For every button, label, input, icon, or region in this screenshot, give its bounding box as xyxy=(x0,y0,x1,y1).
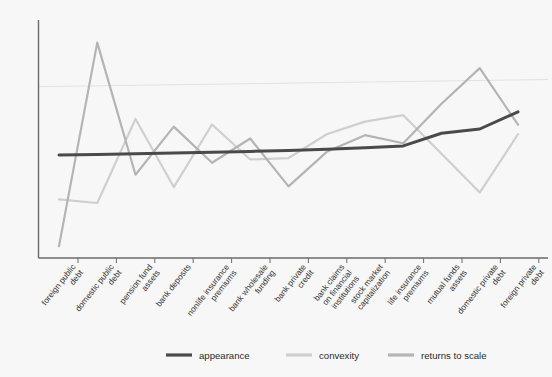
legend-label: returns to scale xyxy=(421,350,487,361)
legend-label: appearance xyxy=(199,350,250,361)
chart-background xyxy=(0,0,552,377)
line-chart: foreign publicdebtdomestic publicdebtpen… xyxy=(0,0,552,377)
chart-legend: appearanceconvexityreturns to scale xyxy=(166,350,487,361)
chart-container: foreign publicdebtdomestic publicdebtpen… xyxy=(0,0,552,377)
legend-label: convexity xyxy=(319,350,359,361)
